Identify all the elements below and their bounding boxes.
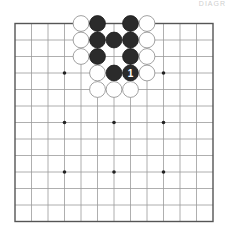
star-point (162, 71, 166, 75)
black-stone[interactable] (106, 32, 122, 48)
white-stone[interactable] (73, 49, 89, 65)
star-point (112, 121, 116, 125)
white-stone[interactable] (106, 82, 122, 98)
white-stone[interactable] (90, 82, 106, 98)
black-stone[interactable] (123, 16, 139, 32)
white-stone[interactable] (73, 16, 89, 32)
black-stone[interactable] (123, 32, 139, 48)
go-board[interactable]: 1 (0, 0, 226, 232)
star-point (162, 170, 166, 174)
white-stone[interactable] (73, 32, 89, 48)
star-point (63, 121, 67, 125)
black-stone[interactable] (123, 49, 139, 65)
black-stone[interactable] (90, 32, 106, 48)
black-stone[interactable] (106, 65, 122, 81)
star-point (162, 121, 166, 125)
star-point (112, 170, 116, 174)
star-point (63, 170, 67, 174)
black-stone[interactable] (90, 16, 106, 32)
star-point (63, 71, 67, 75)
white-stone[interactable] (139, 32, 155, 48)
white-stone[interactable] (90, 65, 106, 81)
move-number-label: 1 (128, 68, 134, 79)
white-stone[interactable] (139, 65, 155, 81)
black-stone[interactable] (90, 49, 106, 65)
white-stone[interactable] (123, 82, 139, 98)
white-stone[interactable] (139, 16, 155, 32)
white-stone[interactable] (139, 49, 155, 65)
